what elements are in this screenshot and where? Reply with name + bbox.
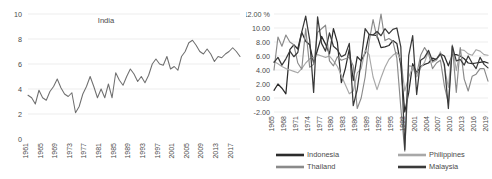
y-axis-tick-label: 8.00 <box>256 38 270 47</box>
x-axis-tick-label: 1969 <box>51 143 58 159</box>
x-axis-tick-label: 1983 <box>339 116 346 132</box>
x-axis-tick-label: 2013 <box>212 143 219 159</box>
y-axis-tick-label: 6 <box>18 60 22 69</box>
legend-label-thailand: Thailand <box>307 162 335 171</box>
x-axis-tick-label: 2001 <box>411 116 418 132</box>
x-axis-tick-label: 2013 <box>458 116 465 132</box>
x-axis-tick-label: 2016 <box>470 116 477 132</box>
legend-label-philippines: Philippines <box>429 150 465 159</box>
two-chart-figure: 0246810India1961196519691973197719811985… <box>0 0 492 179</box>
x-axis-tick-label: 1992 <box>375 116 382 132</box>
legend-label-malaysia: Malaysia <box>429 162 459 171</box>
x-axis-tick-label: 1980 <box>327 116 334 132</box>
x-axis-tick-label: 1971 <box>292 116 299 132</box>
asean-chart-canvas: -2.000.002.004.006.008.0010.0012.00 %196… <box>246 0 492 179</box>
chart-title-india: India <box>98 16 115 25</box>
asean-growth-chart: -2.000.002.004.006.008.0010.0012.00 %196… <box>246 0 492 179</box>
legend-label-indonesia: Indonesia <box>307 150 340 159</box>
y-axis-tick-label: 2.00 <box>256 80 270 89</box>
series-line-india <box>28 40 240 113</box>
x-axis-tick-label: 1974 <box>304 116 311 132</box>
y-axis-tick-label: 8 <box>18 35 22 44</box>
x-axis-tick-label: 1965 <box>37 143 44 159</box>
y-axis-tick-label: 0 <box>18 135 22 144</box>
x-axis-tick-label: 1986 <box>351 116 358 132</box>
x-axis-tick-label: 1993 <box>139 143 146 159</box>
x-axis-tick-label: 2010 <box>446 116 453 132</box>
x-axis-tick-label: 2005 <box>183 143 190 159</box>
x-axis-tick-label: 2001 <box>168 143 175 159</box>
y-axis-tick-label: 6.00 <box>256 52 270 61</box>
x-axis-tick-label: 1968 <box>280 116 287 132</box>
x-axis-tick-label: 1977 <box>316 116 323 132</box>
india-growth-chart: 0246810India1961196519691973197719811985… <box>0 0 246 179</box>
india-chart-canvas: 0246810India1961196519691973197719811985… <box>0 0 246 179</box>
x-axis-tick-label: 2009 <box>197 143 204 159</box>
x-axis-tick-label: 1997 <box>154 143 161 159</box>
x-axis-tick-label: 1977 <box>80 143 87 159</box>
x-axis-tick-label: 1981 <box>95 143 102 159</box>
y-axis-tick-label: 10 <box>14 10 22 19</box>
x-axis-tick-label: 1973 <box>66 143 73 159</box>
x-axis-tick-label: 1995 <box>387 116 394 132</box>
x-axis-tick-label: 1989 <box>363 116 370 132</box>
x-axis-tick-label: 1989 <box>124 143 131 159</box>
x-axis-tick-label: 2007 <box>434 116 441 132</box>
x-axis-tick-label: 1965 <box>268 116 275 132</box>
x-axis-tick-label: 2019 <box>482 116 489 132</box>
x-axis-tick-label: 1961 <box>22 143 29 159</box>
y-axis-tick-label: 4 <box>18 85 22 94</box>
x-axis-tick-label: 2004 <box>423 116 430 132</box>
y-axis-tick-label: 2 <box>18 110 22 119</box>
x-axis-tick-label: 1998 <box>399 116 406 132</box>
x-axis-tick-label: 2017 <box>227 143 234 159</box>
y-axis-tick-label: 0.00 <box>256 94 270 103</box>
y-axis-tick-label: 12.00 % <box>246 10 271 19</box>
y-axis-tick-label: -2.00 <box>254 108 270 117</box>
y-axis-tick-label: 10.00 <box>252 24 270 33</box>
x-axis-tick-label: 1985 <box>110 143 117 159</box>
y-axis-tick-label: 4.00 <box>256 66 270 75</box>
